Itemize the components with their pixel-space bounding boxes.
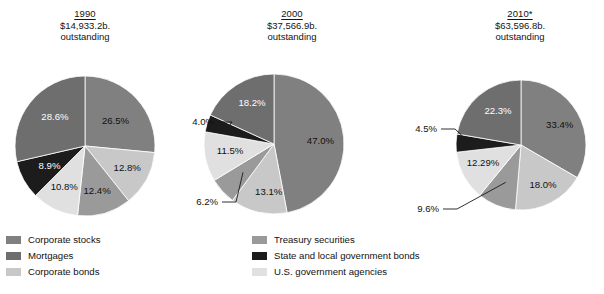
legend-column-left: Corporate stocks Mortgages Corporate bon…	[6, 232, 101, 280]
pie-chart-2010: 33.4%18.0%9.6%12.29%4.5%22.3%	[406, 62, 596, 228]
legend-swatch-icon	[6, 236, 21, 244]
chart-year-label: 1990	[5, 8, 165, 20]
legend-item-label: Treasury securities	[274, 235, 355, 245]
legend-swatch-icon	[252, 268, 267, 276]
chart-header-2000: 2000 $37,566.9b. outstanding	[212, 8, 372, 43]
pie-slice-label: 47.0%	[307, 135, 335, 146]
legend-item-label: Corporate stocks	[28, 235, 101, 245]
pie-slice-label: 12.4%	[83, 185, 111, 196]
pie-slice-label: 4.5%	[415, 123, 437, 134]
legend-column-right: Treasury securities State and local gove…	[252, 232, 420, 280]
pie-chart-figure: 1990 $14,933.2b. outstanding 2000 $37,56…	[0, 0, 604, 294]
chart-amount-label: $63,596.8b.	[440, 20, 600, 32]
legend-swatch-icon	[252, 252, 267, 260]
pie-chart-1990: 26.5%12.8%12.4%10.8%8.9%28.6%	[8, 66, 173, 226]
legend-item-state-local-bonds: State and local government bonds	[252, 248, 420, 263]
pie-slice-label: 22.3%	[484, 105, 512, 116]
legend-item-label: Mortgages	[28, 251, 73, 261]
chart-amount-label: $37,566.9b.	[212, 20, 372, 32]
pie-slice-label: 28.6%	[41, 111, 69, 122]
legend-item-label: U.S. government agencies	[274, 267, 387, 277]
chart-header-1990: 1990 $14,933.2b. outstanding	[5, 8, 165, 43]
legend-item-label: Corporate bonds	[28, 267, 99, 277]
chart-outstanding-label: outstanding	[212, 31, 372, 43]
pie-slice-label: 8.9%	[39, 160, 61, 171]
pie-slice-label: 10.8%	[51, 181, 79, 192]
pie-slice-label: 18.2%	[238, 97, 266, 108]
pie-slice-label: 12.29%	[467, 157, 500, 168]
chart-amount-label: $14,933.2b.	[5, 20, 165, 32]
legend-item-mortgages: Mortgages	[6, 248, 101, 263]
pie-chart-2000: 47.0%13.1%6.2%11.5%4.0%18.2%	[186, 60, 366, 228]
chart-year-label: 2010*	[440, 8, 600, 20]
chart-outstanding-label: outstanding	[440, 31, 600, 43]
legend-swatch-icon	[6, 268, 21, 276]
legend-item-corporate-bonds: Corporate bonds	[6, 264, 101, 279]
legend-item-treasury-securities: Treasury securities	[252, 232, 420, 247]
pie-slice-label: 26.5%	[102, 115, 130, 126]
pie-slice-label: 18.0%	[529, 179, 557, 190]
legend-item-corporate-stocks: Corporate stocks	[6, 232, 101, 247]
chart-year-label: 2000	[212, 8, 372, 20]
pie-slice-label: 4.0%	[192, 116, 214, 127]
legend-swatch-icon	[252, 236, 267, 244]
legend-item-us-government-agencies: U.S. government agencies	[252, 264, 420, 279]
pie-slice-label: 6.2%	[196, 196, 218, 207]
chart-outstanding-label: outstanding	[5, 31, 165, 43]
chart-header-2010: 2010* $63,596.8b. outstanding	[440, 8, 600, 43]
pie-slice-label: 13.1%	[255, 186, 283, 197]
pie-slice-label: 11.5%	[217, 145, 244, 156]
legend-swatch-icon	[6, 252, 21, 260]
pie-slice-label: 9.6%	[417, 203, 439, 214]
legend: Corporate stocks Mortgages Corporate bon…	[0, 232, 604, 294]
pie-slice-label: 33.4%	[546, 119, 574, 130]
pie-slice-label: 12.8%	[114, 162, 142, 173]
legend-item-label: State and local government bonds	[274, 251, 420, 261]
